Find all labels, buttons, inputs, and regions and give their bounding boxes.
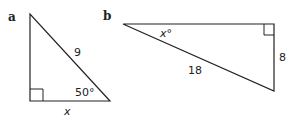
diagram-canvas: a 9 50° x b x° 18 8 — [0, 0, 298, 120]
triangle-b: b x° 18 8 — [103, 9, 286, 91]
right-angle-marker-b — [264, 24, 274, 35]
hypotenuse-label-a: 9 — [74, 46, 81, 59]
triangle-a-outline — [30, 14, 110, 101]
triangle-a: a 9 50° x — [8, 10, 110, 118]
base-label-a: x — [63, 105, 71, 118]
part-label-b: b — [103, 9, 111, 23]
right-angle-marker-a — [30, 89, 43, 101]
side-label-b: 8 — [279, 51, 286, 64]
hypotenuse-label-b: 18 — [188, 64, 202, 77]
triangle-b-outline — [123, 24, 274, 91]
angle-label-a: 50° — [75, 86, 95, 99]
part-label-a: a — [8, 10, 16, 24]
angle-label-b: x° — [159, 27, 172, 40]
